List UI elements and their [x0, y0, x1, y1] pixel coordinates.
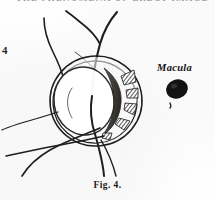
running-head: THE PHENOMENA OF ERECT IMAGE: [0, 0, 215, 7]
optic-disc-illustration: [0, 0, 215, 200]
figure-caption: Fig. 4.: [0, 180, 215, 190]
figure-plate: THE PHENOMENA OF ERECT IMAGE 4: [0, 0, 215, 200]
margin-figure-number: 4: [2, 44, 8, 56]
running-head-text: THE PHENOMENA OF ERECT IMAGE: [16, 0, 208, 3]
macula-label: Macula: [157, 62, 192, 73]
macula-spot: [164, 77, 191, 108]
